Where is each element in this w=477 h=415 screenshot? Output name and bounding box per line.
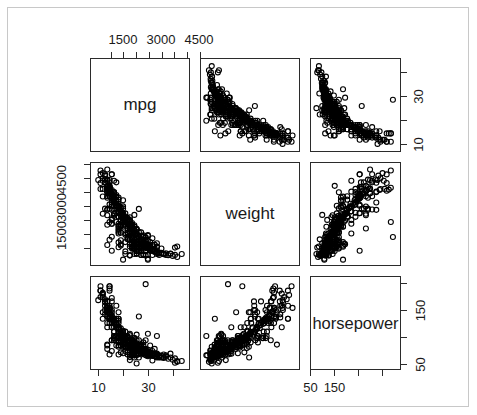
panel-mpg-vs-horsepower[interactable]: [90, 276, 190, 370]
scatter-points-p01: [201, 59, 299, 151]
scatterplot-matrix: mpg weight horsepower: [90, 58, 401, 370]
panel-weight-vs-mpg[interactable]: [200, 58, 300, 152]
panel-label-weight: weight: [201, 204, 299, 224]
axis-bottom-mpg-tick: [98, 370, 99, 376]
axis-bottom-hp-tick: [358, 370, 359, 376]
axis-bottom-mpg: 10 30: [90, 370, 190, 404]
panel-label-horsepower: horsepower: [311, 314, 400, 333]
panel-mpg-vs-weight[interactable]: [90, 162, 190, 266]
scatter-points-p21: [201, 277, 299, 369]
scatter-points-p12: [311, 163, 400, 265]
axis-right-mpg-tick: [401, 96, 407, 97]
axis-right-mpg: 30 10: [401, 58, 446, 152]
scatter-points-p02: [311, 59, 400, 151]
axis-right-hp-tick: [401, 310, 407, 311]
axis-bottom-mpg-label-10: 10: [82, 380, 115, 395]
axis-bottom-hp-label-150: 150: [318, 380, 351, 395]
axis-top-tick-label-0: 1500: [104, 32, 142, 47]
axis-bottom-hp-tick: [334, 370, 335, 376]
axis-bottom-hp-tick: [382, 370, 383, 376]
axis-bottom-mpg-tick: [123, 370, 124, 376]
axis-right-mpg-label-30: 30: [411, 81, 426, 113]
axis-right-mpg-tick: [401, 72, 407, 73]
panel-horsepower-vs-mpg[interactable]: [310, 58, 401, 152]
scatter-points-p20: [91, 277, 189, 369]
axis-right-hp-label-50: 50: [413, 347, 428, 383]
axis-left-weight-label-1500: 1500: [54, 215, 69, 257]
axis-right-hp-tick: [401, 364, 407, 365]
panel-weight-diagonal[interactable]: weight: [200, 162, 300, 266]
axis-bottom-mpg-tick: [173, 370, 174, 376]
panel-horsepower-diagonal[interactable]: horsepower: [310, 276, 401, 370]
axis-right-hp-tick: [401, 283, 407, 284]
axis-right-mpg-label-10: 10: [411, 129, 426, 161]
axis-top-tick-label-1: 3000: [142, 32, 180, 47]
axis-right-mpg-tick: [401, 144, 407, 145]
axis-bottom-hp-tick: [310, 370, 311, 376]
axis-bottom-horsepower: 50 150: [301, 370, 401, 404]
axis-right-mpg-tick: [401, 120, 407, 121]
axis-right-hp-tick: [401, 337, 407, 338]
scatter-points-p10: [91, 163, 189, 265]
axis-bottom-mpg-tick: [148, 370, 149, 376]
axis-right-hp-label-150: 150: [413, 293, 428, 329]
axis-top-weight: 1500 3000 4500: [111, 32, 222, 58]
axis-top-tick-label-2: 4500: [180, 32, 218, 47]
figure-root: 1500 3000 4500 30 10: [0, 0, 477, 415]
figure-frame: 1500 3000 4500 30 10: [7, 7, 469, 407]
axis-left-weight: 4500 3000 1500: [38, 161, 90, 265]
axis-bottom-mpg-label-30: 30: [132, 380, 165, 395]
panel-label-mpg: mpg: [91, 95, 189, 115]
panel-mpg-diagonal[interactable]: mpg: [90, 58, 190, 152]
axis-right-horsepower: 150 50: [401, 270, 446, 370]
panel-weight-vs-horsepower[interactable]: [200, 276, 300, 370]
panel-horsepower-vs-weight[interactable]: [310, 162, 401, 266]
